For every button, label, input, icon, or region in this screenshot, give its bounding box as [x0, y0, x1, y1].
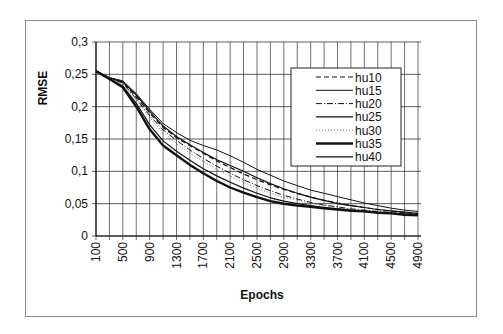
x-tick-label: 900 [143, 242, 157, 262]
x-axis-ticks: 1005009001300170021002500290033003700410… [89, 242, 425, 269]
legend-label-hu30: hu30 [355, 124, 382, 138]
x-tick-label: 3300 [304, 242, 318, 269]
legend-label-hu35: hu35 [355, 137, 382, 151]
legend-label-hu15: hu15 [355, 84, 382, 98]
x-tick-label: 3700 [331, 242, 345, 269]
x-tick-label: 1700 [196, 242, 210, 269]
x-tick-label: 2100 [223, 242, 237, 269]
legend: hu10hu15hu20hu25hu30hu35hu40 [291, 68, 401, 166]
legend-label-hu20: hu20 [355, 97, 382, 111]
y-axis-title: RMSE [36, 71, 50, 106]
x-tick-label: 2900 [277, 242, 291, 269]
y-tick-label: 0,3 [71, 35, 88, 49]
x-tick-label: 4100 [357, 242, 371, 269]
y-tick-label: 0,2 [71, 100, 88, 114]
y-axis-ticks: 00,050,10,150,20,250,3 [65, 35, 89, 243]
y-tick-label: 0 [81, 229, 88, 243]
y-tick-label: 0,15 [65, 132, 89, 146]
x-tick-label: 1300 [170, 242, 184, 269]
line-chart: 00,050,10,150,20,250,3 10050090013001700… [0, 0, 503, 334]
legend-label-hu10: hu10 [355, 71, 382, 85]
y-tick-label: 0,05 [65, 197, 89, 211]
x-tick-label: 4500 [384, 242, 398, 269]
legend-label-hu40: hu40 [355, 150, 382, 164]
x-tick-label: 2500 [250, 242, 264, 269]
x-tick-label: 100 [89, 242, 103, 262]
legend-label-hu25: hu25 [355, 110, 382, 124]
y-tick-label: 0,25 [65, 67, 89, 81]
y-tick-label: 0,1 [71, 164, 88, 178]
x-tick-label: 4900 [411, 242, 425, 269]
x-axis-title: Epochs [240, 288, 284, 302]
x-tick-label: 500 [116, 242, 130, 262]
